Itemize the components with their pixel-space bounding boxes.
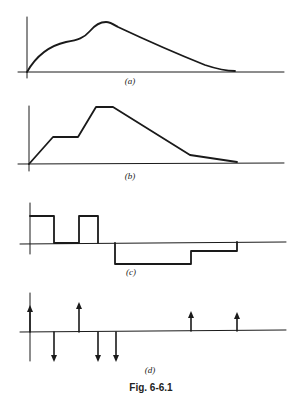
x-axis-b [18, 163, 284, 164]
arrow-up-icon [27, 305, 33, 312]
impulses [30, 306, 237, 359]
panel-c [20, 203, 286, 264]
x-axis-d [20, 330, 286, 332]
panel-b [18, 106, 284, 171]
figure-caption: Fig. 6-6.1 [129, 382, 172, 393]
panel-d [20, 293, 286, 362]
arrow-down-icon [95, 355, 101, 362]
label-c: (c) [126, 267, 136, 277]
waveform-b [29, 107, 237, 164]
figure-canvas [0, 0, 298, 407]
label-a: (a) [125, 76, 136, 86]
waveform-c-negative [115, 242, 237, 264]
arrow-up-icon [234, 312, 240, 319]
waveform-a [27, 22, 235, 72]
panel-a [18, 17, 284, 78]
arrow-up-icon [188, 311, 194, 318]
label-d: (d) [145, 365, 156, 375]
arrow-down-icon [51, 355, 57, 362]
waveform-c-positive [30, 216, 98, 243]
arrow-up-icon [76, 302, 82, 309]
label-b: (b) [125, 171, 136, 181]
arrow-down-icon [113, 355, 119, 362]
